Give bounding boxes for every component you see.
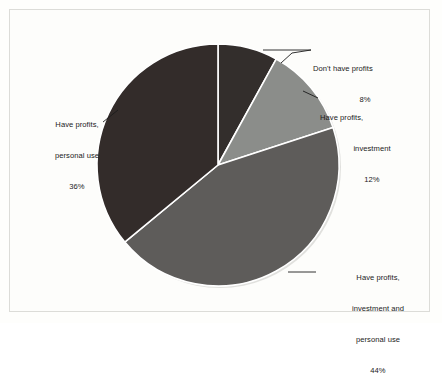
pie-label-have-profits-personal: Have profits, personal use 36% <box>28 99 126 213</box>
pie-label-have-profits-personal-line2: personal use <box>28 151 126 161</box>
pie-label-have-profits-investment-personal-line3: personal use <box>318 335 438 345</box>
pie-label-have-profits-investment: Have profits, investment 12% <box>320 92 438 206</box>
pie-label-have-profits-investment-line2: investment <box>320 144 424 154</box>
pie-label-have-profits-investment-personal-line1: Have profits, <box>318 273 438 283</box>
pie-label-have-profits-personal-line1: Have profits, <box>28 120 126 130</box>
pie-label-have-profits-investment-line1: Have profits, <box>320 113 438 123</box>
pie-label-have-profits-investment-personal: Have profits, investment and personal us… <box>318 252 438 377</box>
leader-line-dont-have-profits-hook <box>281 50 311 63</box>
pie-label-have-profits-investment-personal-value: 44% <box>318 366 438 376</box>
pie-label-have-profits-investment-personal-line2: investment and <box>318 304 438 314</box>
pie-label-have-profits-investment-value: 12% <box>320 175 424 185</box>
pie-label-have-profits-personal-value: 36% <box>28 182 126 192</box>
pie-label-dont-have-profits-line1: Don't have profits <box>313 64 433 74</box>
